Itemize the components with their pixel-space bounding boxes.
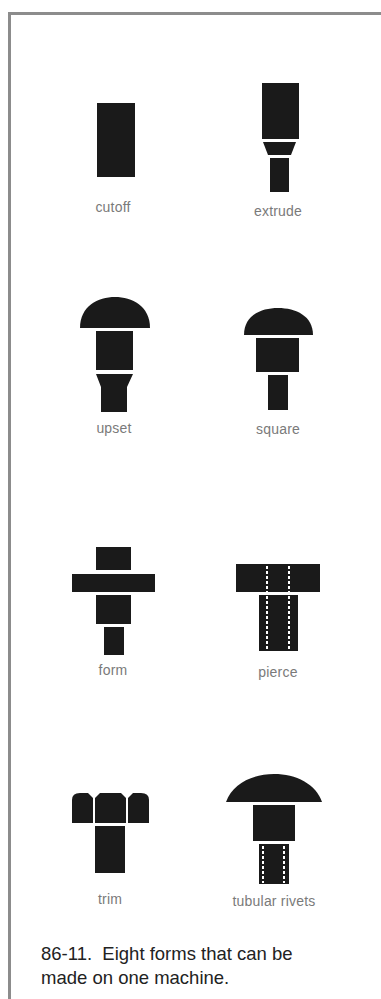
label-form: form — [99, 662, 128, 678]
label-upset: upset — [96, 420, 131, 436]
cutoff-shape — [97, 103, 135, 177]
label-trim: trim — [98, 891, 122, 907]
tubular-rivets-shape — [226, 774, 322, 884]
upset-shape — [80, 297, 150, 412]
label-cutoff: cutoff — [95, 199, 130, 215]
pierce-shape — [236, 564, 320, 651]
label-extrude: extrude — [254, 203, 302, 219]
label-square: square — [256, 421, 300, 437]
forms-diagram — [0, 0, 381, 940]
trim-shape — [72, 793, 149, 873]
square-shape — [244, 308, 313, 410]
figure-caption: 86-11. Eight forms that can be made on o… — [41, 942, 371, 990]
label-pierce: pierce — [258, 664, 297, 680]
caption-line-1: 86-11. Eight forms that can be — [41, 942, 371, 966]
label-tubular-rivets: tubular rivets — [233, 893, 316, 909]
caption-line-2: made on one machine. — [41, 966, 371, 990]
extrude-shape — [262, 83, 299, 192]
form-shape — [72, 547, 155, 655]
